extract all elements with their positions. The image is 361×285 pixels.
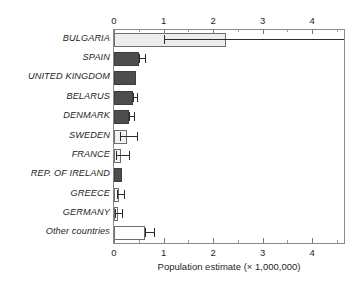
axis-tick-minor <box>238 240 239 243</box>
category-label: FRANCE <box>0 149 110 159</box>
axis-tick-minor <box>287 240 288 243</box>
axis-tick-major <box>312 29 313 34</box>
category-label: BULGARIA <box>0 33 110 43</box>
bar-row <box>114 52 344 66</box>
axis-tick-major <box>263 29 264 34</box>
category-label: GREECE <box>0 188 110 198</box>
axis-tick-label: 4 <box>297 248 327 258</box>
bar <box>114 33 226 47</box>
error-bar-cap <box>116 151 117 160</box>
axis-tick-minor <box>188 29 189 32</box>
error-bar-cap <box>133 93 134 102</box>
category-label: SWEDEN <box>0 130 110 140</box>
error-bar <box>117 194 124 195</box>
axis-tick-label: 1 <box>149 248 179 258</box>
error-bar-cap <box>117 190 118 199</box>
category-axis: BULGARIASPAINUNITED KINGDOMBELARUSDENMAR… <box>0 29 110 244</box>
axis-tick-label: 3 <box>248 16 278 26</box>
bar-row <box>114 188 344 202</box>
axis-tick-minor <box>139 240 140 243</box>
category-label: UNITED KINGDOM <box>0 71 110 81</box>
error-bar-cap <box>139 54 140 63</box>
error-bar-cap <box>124 190 125 199</box>
axis-tick-label: 2 <box>198 248 228 258</box>
axis-tick-label: 4 <box>297 16 327 26</box>
error-bar-cap <box>145 228 146 237</box>
error-bar-cap <box>137 93 138 102</box>
bar-row <box>114 207 344 221</box>
error-bar <box>145 232 154 233</box>
axis-tick-minor <box>139 29 140 32</box>
bar <box>114 91 133 105</box>
error-bar-cap <box>115 209 116 218</box>
axis-tick-minor <box>188 240 189 243</box>
axis-tick-major <box>213 238 214 243</box>
error-bar-cap <box>122 209 123 218</box>
axis-tick-major <box>164 29 165 34</box>
axis-tick-major <box>263 238 264 243</box>
axis-tick-label: 0 <box>99 16 129 26</box>
bar-row <box>114 226 344 240</box>
bar <box>114 110 129 124</box>
bar <box>114 168 122 182</box>
error-bar <box>116 155 129 156</box>
bar-chart-figure: BULGARIASPAINUNITED KINGDOMBELARUSDENMAR… <box>0 0 361 285</box>
bar-row <box>114 168 344 182</box>
bar-row <box>114 71 344 85</box>
axis-tick-major <box>114 238 115 243</box>
axis-tick-major <box>164 238 165 243</box>
category-label: DENMARK <box>0 110 110 120</box>
bars-layer <box>114 30 344 243</box>
category-label: BELARUS <box>0 91 110 101</box>
axis-tick-minor <box>337 29 338 32</box>
error-bar-cap <box>134 112 135 121</box>
error-bar-cap <box>145 54 146 63</box>
bar-row <box>114 33 344 47</box>
value-axis-top: 01234 <box>113 29 345 30</box>
error-bar <box>164 39 344 40</box>
bar <box>114 52 139 66</box>
axis-tick-label: 2 <box>198 16 228 26</box>
error-bar-cap <box>137 132 138 141</box>
bar-row <box>114 130 344 144</box>
bar-row <box>114 110 344 124</box>
value-axis-bottom: 01234 <box>113 243 345 244</box>
error-bar-cap <box>164 35 165 44</box>
axis-tick-minor <box>238 29 239 32</box>
error-bar-cap <box>129 112 130 121</box>
error-bar-cap <box>120 132 121 141</box>
axis-tick-label: 0 <box>99 248 129 258</box>
axis-tick-major <box>213 29 214 34</box>
bar-row <box>114 149 344 163</box>
category-label: Other countries <box>0 226 110 236</box>
axis-tick-major <box>114 29 115 34</box>
axis-tick-major <box>312 238 313 243</box>
bar-row <box>114 91 344 105</box>
bar <box>114 226 145 240</box>
error-bar <box>120 136 137 137</box>
axis-tick-minor <box>337 240 338 243</box>
category-label: SPAIN <box>0 52 110 62</box>
bar <box>114 71 136 85</box>
x-axis-title: Population estimate (× 1,000,000) <box>113 261 345 272</box>
error-bar-cap <box>154 228 155 237</box>
axis-tick-minor <box>287 29 288 32</box>
category-label: REP. OF IRELAND <box>0 168 110 178</box>
error-bar-cap <box>129 151 130 160</box>
axis-tick-label: 3 <box>248 248 278 258</box>
axis-tick-label: 1 <box>149 16 179 26</box>
category-label: GERMANY <box>0 207 110 217</box>
